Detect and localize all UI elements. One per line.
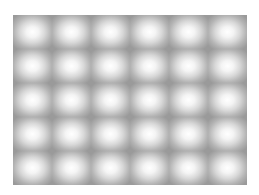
spot bbox=[130, 117, 169, 151]
spot bbox=[91, 117, 130, 151]
spot bbox=[13, 83, 52, 117]
spot bbox=[169, 83, 208, 117]
spot bbox=[208, 117, 247, 151]
spot bbox=[208, 15, 247, 49]
spot bbox=[52, 83, 91, 117]
spot bbox=[13, 151, 52, 185]
spot bbox=[130, 83, 169, 117]
spot bbox=[208, 83, 247, 117]
spot bbox=[91, 15, 130, 49]
spot bbox=[169, 117, 208, 151]
spot bbox=[52, 15, 91, 49]
spot bbox=[169, 15, 208, 49]
spot bbox=[130, 49, 169, 83]
spot bbox=[169, 49, 208, 83]
spot bbox=[208, 49, 247, 83]
spot bbox=[13, 49, 52, 83]
spot bbox=[13, 117, 52, 151]
spot bbox=[52, 151, 91, 185]
spot bbox=[130, 151, 169, 185]
spot bbox=[52, 49, 91, 83]
spot bbox=[130, 15, 169, 49]
spot bbox=[13, 15, 52, 49]
spot bbox=[91, 83, 130, 117]
spot bbox=[169, 151, 208, 185]
spot bbox=[91, 151, 130, 185]
spot bbox=[91, 49, 130, 83]
spot bbox=[208, 151, 247, 185]
spot bbox=[52, 117, 91, 151]
spot-grid-image bbox=[13, 15, 247, 185]
